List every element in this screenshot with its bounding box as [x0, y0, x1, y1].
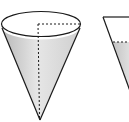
left-cone	[2, 12, 81, 121]
left-cone-body	[2, 27, 81, 120]
left-cone-top	[2, 12, 81, 37]
cone-diagram	[0, 0, 129, 122]
right-cone	[103, 17, 129, 91]
